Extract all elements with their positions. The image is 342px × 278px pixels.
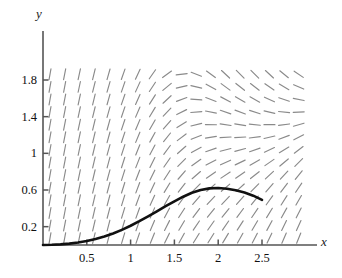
field-segment xyxy=(64,220,66,231)
field-segment xyxy=(220,149,231,152)
field-segment xyxy=(49,195,51,206)
field-segment xyxy=(191,123,202,126)
field-segment xyxy=(177,122,186,128)
field-segment xyxy=(121,69,125,79)
field-segment xyxy=(179,233,184,243)
field-segment xyxy=(221,84,230,91)
field-segment xyxy=(64,132,66,143)
field-segment xyxy=(237,233,242,243)
field-segment xyxy=(107,145,110,156)
field-segment xyxy=(78,208,80,219)
field-segment xyxy=(206,84,216,89)
field-segment xyxy=(149,82,155,91)
field-segment xyxy=(64,170,66,181)
field-segment xyxy=(136,170,140,180)
field-segment xyxy=(78,145,80,156)
field-segment xyxy=(192,159,201,165)
field-segment xyxy=(266,196,272,205)
field-segment xyxy=(78,107,80,118)
plot-canvas xyxy=(0,0,342,278)
field-segment xyxy=(163,96,171,104)
field-segment xyxy=(235,160,245,165)
field-segment xyxy=(136,157,140,167)
field-segment xyxy=(64,182,66,193)
field-segment xyxy=(206,111,217,113)
field-segment xyxy=(165,233,170,243)
field-segment xyxy=(150,145,155,155)
field-segment xyxy=(279,147,288,153)
field-segment xyxy=(122,195,125,206)
field-segment xyxy=(136,107,140,117)
field-segment xyxy=(281,196,287,205)
field-segment xyxy=(296,208,301,218)
field-segment xyxy=(267,233,272,243)
field-segment xyxy=(265,71,273,78)
field-segment xyxy=(222,221,228,230)
field-segment xyxy=(164,133,171,142)
field-segment xyxy=(294,71,303,77)
field-segment xyxy=(49,170,51,181)
field-segment xyxy=(236,83,245,90)
y-tick-label-4: 1.8 xyxy=(21,73,37,88)
field-segment xyxy=(177,98,187,102)
field-segment xyxy=(267,208,273,217)
field-segment xyxy=(107,195,110,206)
field-segment xyxy=(164,145,171,154)
field-segment xyxy=(93,145,96,156)
field-segment xyxy=(191,135,201,139)
field-segment xyxy=(206,160,216,165)
field-segment xyxy=(136,120,140,130)
field-segment xyxy=(107,220,110,231)
field-segment xyxy=(222,209,229,218)
field-segment xyxy=(78,182,80,193)
field-segment xyxy=(235,110,245,114)
field-segment xyxy=(107,107,110,118)
field-segment xyxy=(220,124,231,126)
field-segment xyxy=(280,159,288,166)
field-segment xyxy=(78,82,80,93)
field-segment xyxy=(191,99,202,100)
field-segment xyxy=(193,209,200,218)
field-segment xyxy=(107,170,110,181)
field-segment xyxy=(252,208,258,217)
field-segment xyxy=(193,221,199,230)
field-segment xyxy=(64,94,66,105)
field-segment xyxy=(281,208,286,218)
field-segment xyxy=(294,147,303,154)
field-segment xyxy=(150,170,155,180)
field-segment xyxy=(279,112,290,113)
field-segment xyxy=(250,84,259,91)
field-segment xyxy=(93,170,96,181)
field-segment xyxy=(64,208,66,219)
field-segment xyxy=(136,82,141,92)
field-segment xyxy=(178,159,186,167)
field-segment xyxy=(136,132,140,142)
field-segment xyxy=(150,132,155,142)
field-segment xyxy=(191,72,201,76)
field-segment xyxy=(64,107,66,118)
field-segment xyxy=(221,172,230,178)
field-segment xyxy=(93,195,96,206)
field-segment xyxy=(136,233,140,243)
field-segment xyxy=(107,208,110,219)
field-segment xyxy=(178,171,185,179)
field-segment xyxy=(279,124,290,125)
field-segment xyxy=(236,172,245,178)
field-segment xyxy=(251,172,260,179)
field-segment xyxy=(64,195,66,206)
field-segment xyxy=(107,69,110,80)
field-segment xyxy=(264,148,274,153)
field-segment xyxy=(250,160,260,165)
field-segment xyxy=(264,111,275,113)
field-segment xyxy=(264,136,275,139)
field-segment xyxy=(78,220,80,231)
field-segment xyxy=(49,157,51,168)
field-segment xyxy=(281,183,288,192)
field-segment xyxy=(78,195,80,206)
field-segment xyxy=(191,147,201,152)
field-segment xyxy=(179,221,185,230)
field-segment xyxy=(296,196,302,206)
field-segment xyxy=(222,71,230,79)
x-tick-label-0: 0.5 xyxy=(79,251,95,266)
x-tick-label-2: 1.5 xyxy=(167,251,183,266)
